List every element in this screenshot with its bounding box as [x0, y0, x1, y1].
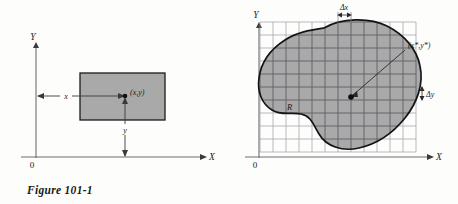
x-axis-group: X 0: [21, 152, 216, 170]
x-distance-arrow-left: [37, 93, 44, 99]
figure-page: Y X 0 x: [0, 0, 458, 204]
x-distance-label: x: [63, 92, 68, 101]
sample-point-marker: [348, 94, 354, 100]
x-axis-arrowhead: [427, 154, 434, 160]
y-axis-arrowhead: [33, 42, 39, 48]
delta-y-label: Δy: [425, 90, 435, 99]
y-distance-label: y: [122, 126, 127, 135]
y-axis-label: Y: [30, 32, 37, 42]
sample-point-label: (x*,y*): [408, 41, 431, 50]
origin-label: 0: [253, 160, 258, 170]
region-fill: [259, 20, 422, 149]
figure-101-2-graphic: Y X 0 R: [229, 0, 458, 180]
x-axis-label: X: [435, 152, 443, 162]
delta-y-arrow-bottom: [420, 96, 425, 101]
figure-101-1-caption: Figure 101-1: [27, 184, 93, 196]
y-axis-arrowhead: [256, 22, 262, 28]
region-label: R: [286, 102, 293, 112]
figure-101-1-pane: Y X 0 x: [0, 0, 229, 204]
x-axis-label: X: [208, 152, 216, 162]
figure-101-2-pane: Y X 0 R: [229, 0, 458, 204]
point-marker: [123, 94, 128, 99]
point-label: (x,y): [130, 88, 145, 97]
x-axis-group: X 0: [245, 152, 443, 170]
delta-x-label: Δx: [339, 3, 349, 12]
delta-y-annotation: Δy: [420, 86, 435, 101]
y-axis-label: Y: [253, 10, 260, 20]
y-distance-arrow-bottom: [122, 150, 128, 157]
x-axis-arrowhead: [200, 154, 207, 160]
origin-label: 0: [30, 160, 35, 170]
figure-101-1-graphic: Y X 0 x: [0, 0, 229, 180]
y-axis-group: Y: [30, 32, 39, 158]
